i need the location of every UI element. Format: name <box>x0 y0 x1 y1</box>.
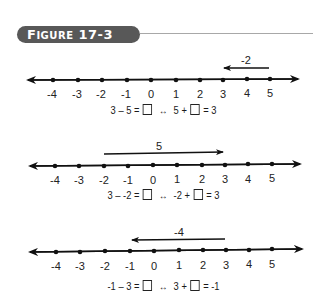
double-arrow-icon: ↔ <box>159 280 168 293</box>
svg-text:-3: -3 <box>75 260 85 272</box>
equation-right-a: 5 + <box>174 104 187 116</box>
number-line-3: -4 -3 -2 -1 0 1 2 3 4 5 -4 <box>30 226 302 272</box>
svg-text:-2: -2 <box>99 174 109 186</box>
answer-box <box>193 189 202 200</box>
number-lines-diagram: -4 -3 -2 -1 0 1 2 3 4 5 -2 -4 -3 -2 -1 0… <box>0 0 327 305</box>
svg-text:2: 2 <box>200 259 206 271</box>
svg-text:-1: -1 <box>123 174 133 186</box>
jump-arrow <box>104 152 223 154</box>
tick-labels: -4 -3 -2 -1 0 1 2 3 4 5 <box>47 87 273 100</box>
answer-box <box>143 104 152 115</box>
svg-text:-3: -3 <box>72 88 82 100</box>
tick-labels: -4 -3 -2 -1 0 1 2 3 4 5 <box>50 172 275 186</box>
svg-text:5: 5 <box>269 258 275 270</box>
svg-text:-4: -4 <box>50 174 60 186</box>
svg-text:4: 4 <box>244 87 250 99</box>
svg-text:-4: -4 <box>51 260 61 272</box>
equation-right-a: -2 + <box>174 189 190 201</box>
axis-line <box>30 249 302 252</box>
svg-text:-2: -2 <box>96 88 106 100</box>
svg-text:0: 0 <box>151 260 157 272</box>
svg-text:-4: -4 <box>47 88 57 100</box>
svg-text:5: 5 <box>269 172 275 184</box>
equation-right-b: = 3 <box>203 104 216 116</box>
equation-2: 3 – -2 = ↔ -2 + = 3 <box>25 189 303 202</box>
double-arrow-icon: ↔ <box>159 104 168 117</box>
svg-text:4: 4 <box>245 173 251 185</box>
svg-text:-3: -3 <box>74 174 84 186</box>
answer-box <box>143 280 152 291</box>
equation-right-b: = -1 <box>203 280 219 292</box>
svg-text:1: 1 <box>173 88 179 100</box>
answer-box <box>190 104 199 115</box>
tick-labels: -4 -3 -2 -1 0 1 2 3 4 5 <box>51 258 275 272</box>
number-line-2: -4 -3 -2 -1 0 1 2 3 4 5 5 <box>30 140 300 186</box>
svg-text:5: 5 <box>267 87 273 99</box>
jump-arrow <box>132 239 225 240</box>
equation-left: 3 – 5 = <box>111 104 140 116</box>
svg-text:3: 3 <box>220 88 226 100</box>
jump-arrow-label: -2 <box>241 54 251 66</box>
number-line-1: -4 -3 -2 -1 0 1 2 3 4 5 -2 <box>28 54 298 100</box>
axis-line <box>30 164 300 166</box>
equation-3: -1 – 3 = ↔ 3 + = -1 <box>25 280 303 293</box>
svg-text:-1: -1 <box>121 88 131 100</box>
jump-arrow-label: -4 <box>174 226 184 238</box>
equation-left: 3 – -2 = <box>107 189 139 201</box>
svg-text:-2: -2 <box>100 260 110 272</box>
svg-text:3: 3 <box>223 259 229 271</box>
svg-text:1: 1 <box>176 259 182 271</box>
svg-text:0: 0 <box>150 174 156 186</box>
svg-text:4: 4 <box>246 258 252 270</box>
svg-text:2: 2 <box>199 173 205 185</box>
axis-line <box>28 79 298 80</box>
svg-text:0: 0 <box>148 88 154 100</box>
double-arrow-icon: ↔ <box>159 189 168 202</box>
equation-right-a: 3 + <box>174 280 187 292</box>
answer-box <box>143 189 152 200</box>
svg-text:2: 2 <box>197 88 203 100</box>
svg-text:1: 1 <box>174 173 180 185</box>
equation-right-b: = 3 <box>206 189 219 201</box>
jump-arrow-label: 5 <box>156 140 162 152</box>
equation-left: -1 – 3 = <box>107 280 139 292</box>
answer-box <box>190 280 199 291</box>
svg-text:3: 3 <box>222 173 228 185</box>
svg-text:-1: -1 <box>125 260 135 272</box>
equation-1: 3 – 5 = ↔ 5 + = 3 <box>25 104 303 117</box>
